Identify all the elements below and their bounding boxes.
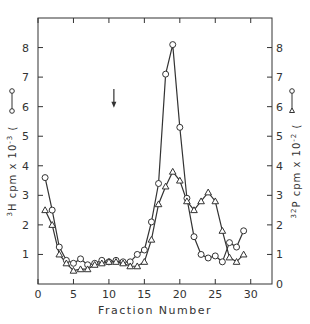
data-point-triangle [240,251,247,257]
data-point-circle [134,251,140,257]
y-tick-label-left: 3 [22,189,29,202]
x-tick-label: 5 [70,288,77,301]
data-point-circle [78,256,84,262]
y-tick-label-left: 8 [22,42,29,55]
data-point-circle [205,255,211,261]
svg-text:3H cpm x 10-3 (: 3H cpm x 10-3 ( [6,126,18,217]
data-point-circle [198,251,204,257]
data-point-circle [70,260,76,266]
y-axis-label-left: 3H cpm x 10-3 ( [6,126,18,217]
x-tick-label: 15 [137,288,151,301]
data-point-triangle [162,183,169,189]
y-tick-label-left: 2 [22,219,29,232]
y-tick-label-right: 1 [276,248,283,261]
x-tick-label: 0 [35,288,42,301]
data-point-triangle [219,228,226,234]
y-axis-label-right: 32P cpm x 10-2 ( [290,124,302,219]
data-point-circle [49,207,55,213]
data-point-circle [163,71,169,77]
y-tick-label-right: 4 [276,160,283,173]
series-line-circle [45,45,244,265]
data-point-triangle [42,207,49,213]
x-tick-label: 20 [173,288,187,301]
data-point-triangle [155,201,162,207]
svg-text:32P cpm x 10-2 (: 32P cpm x 10-2 ( [290,124,302,219]
data-point-circle [56,244,62,250]
data-point-circle [234,244,240,250]
y-tick-label-right: 2 [276,219,283,232]
arrow-head-icon [111,102,116,108]
legend-circle-icon [10,89,15,94]
data-point-circle [170,42,176,48]
x-tick-label: 10 [102,288,116,301]
data-point-circle [219,259,225,265]
y-tick-label-right: 5 [276,130,283,143]
data-point-circle [191,234,197,240]
data-point-triangle [148,236,155,242]
y-tick-label-right: 8 [276,42,283,55]
y-tick-label-right: 3 [276,189,283,202]
data-point-circle [42,175,48,181]
y-tick-label-left: 1 [22,248,29,261]
legend-circle-icon [10,109,15,114]
data-point-triangle [226,254,233,260]
y-tick-label-right: 6 [276,101,283,114]
x-tick-label: 25 [208,288,222,301]
y-tick-label-left: 4 [22,160,29,173]
y-tick-label-left: 7 [22,71,29,84]
data-point-triangle [141,259,148,265]
data-point-triangle [205,189,212,195]
data-point-circle [156,181,162,187]
data-point-circle [141,247,147,253]
data-point-circle [212,253,218,259]
y-tick-label-right: 0 [276,278,283,291]
legend-triangle-icon [290,108,295,113]
data-point-circle [148,219,154,225]
x-axis-label: Fraction Number [98,304,212,317]
y-tick-label-left: 5 [22,130,29,143]
chart: 05101520253001122334455667788Fraction Nu… [0,0,310,324]
data-point-circle [226,240,232,246]
data-point-triangle [169,168,176,174]
x-tick-label: 30 [244,288,258,301]
data-point-circle [177,124,183,130]
data-point-circle [241,228,247,234]
y-tick-label-right: 7 [276,71,283,84]
y-tick-label-left: 6 [22,101,29,114]
legend-circle-icon [290,89,295,94]
